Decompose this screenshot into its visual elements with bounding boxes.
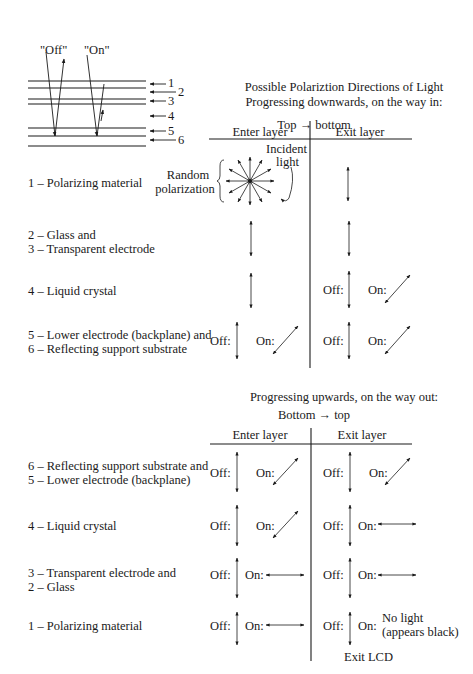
top-row-2-label-b: 3 – Transparent electrode <box>28 242 155 256</box>
layer-number-2: 2 <box>178 85 184 99</box>
top-row-4-label-b: 6 – Reflecting support substrate <box>28 342 187 356</box>
bottom-row-4-enter-on: On: <box>245 619 264 633</box>
top-row-4-enter-off: Off: <box>210 334 231 348</box>
no-light-label-2: (appears black) <box>382 625 459 639</box>
random-label-1: Random <box>158 168 218 182</box>
bottom-title: Progressing upwards, on the way out: <box>214 390 473 404</box>
top-row-2-label-a: 2 – Glass and <box>28 228 96 242</box>
no-light-label-1: No light <box>382 611 423 625</box>
bottom-row-4-exit-off: Off: <box>323 619 344 633</box>
top-title-line1: Possible Polariztion Directions of Light <box>214 80 473 94</box>
bottom-row-1-enter-on: On: <box>256 466 275 480</box>
top-row-3-label: 4 – Liquid crystal <box>28 284 117 298</box>
bottom-row-2-exit-off: Off: <box>323 519 344 533</box>
bottom-row-3-label-b: 2 – Glass <box>28 580 75 594</box>
top-table-rules <box>209 121 412 368</box>
bottom-row-1-enter-off: Off: <box>210 466 231 480</box>
top-row-4-exit-on: On: <box>368 334 387 348</box>
bottom-row-3-label-a: 3 – Transparent electrode and <box>28 566 176 580</box>
bottom-row-3-exit-off: Off: <box>323 568 344 582</box>
layer-number-1: 1 <box>168 76 174 90</box>
bottom-row-3-enter-on: On: <box>245 568 264 582</box>
off-beam-label: "Off" <box>40 43 67 57</box>
bottom-row-4-enter-off: Off: <box>210 619 231 633</box>
bottom-row-2-label: 4 – Liquid crystal <box>28 519 117 533</box>
on-beam-label: "On" <box>84 43 109 57</box>
bottom-row-1-label-b: 5 – Lower electrode (backplane) <box>28 473 190 487</box>
top-row-3-exit-on: On: <box>368 283 387 297</box>
bottom-row-2-exit-on: On: <box>358 519 377 533</box>
bottom-col-enter: Enter layer <box>212 428 308 442</box>
incident-light-pointer <box>281 167 293 201</box>
bottom-row-3-enter-off: Off: <box>210 568 231 582</box>
random-polarization-starburst <box>226 157 274 205</box>
bottom-row-2-enter-off: Off: <box>210 519 231 533</box>
off-beam <box>46 52 64 136</box>
exit-lcd-label: Exit LCD <box>344 650 393 664</box>
layer-number-5: 5 <box>168 124 174 138</box>
random-label-2: polarization <box>152 182 218 196</box>
incident-label-1: Incident <box>266 142 307 156</box>
top-col-exit: Exit layer <box>312 125 408 139</box>
bottom-direction: Bottom → top <box>214 408 414 422</box>
incident-label-2: light <box>276 155 299 169</box>
bottom-col-exit: Exit layer <box>314 428 410 442</box>
layer-number-3: 3 <box>168 94 174 108</box>
top-col-enter: Enter layer <box>212 125 308 139</box>
on-beam <box>87 55 104 136</box>
random-brace <box>217 160 224 202</box>
bottom-row-1-label-a: 6 – Reflecting support substrate and <box>28 459 208 473</box>
bottom-row-1-exit-on: On: <box>369 466 388 480</box>
bottom-row-2-enter-on: On: <box>256 519 275 533</box>
top-row-4-enter-on: On: <box>256 334 275 348</box>
top-row-4-label-a: 5 – Lower electrode (backplane) and <box>28 328 212 342</box>
top-row-1-label: 1 – Polarizing material <box>28 176 142 190</box>
top-row-4-exit-off: Off: <box>323 334 344 348</box>
layer-number-6: 6 <box>178 133 184 147</box>
bottom-row-1-exit-off: Off: <box>323 466 344 480</box>
bottom-row-4-exit-on: On: <box>358 619 377 633</box>
layer-stack-schematic <box>28 81 146 146</box>
bottom-row-4-label: 1 – Polarizing material <box>28 619 142 633</box>
top-row-3-exit-off: Off: <box>323 283 344 297</box>
bottom-row-3-exit-on: On: <box>358 568 377 582</box>
layer-number-4: 4 <box>168 109 174 123</box>
top-title-line2: Progressing downwards, on the way in: <box>214 95 473 109</box>
